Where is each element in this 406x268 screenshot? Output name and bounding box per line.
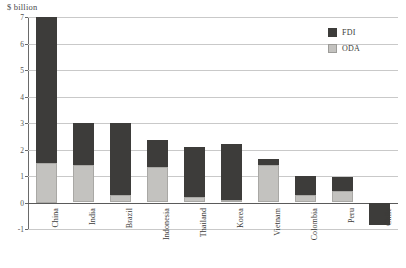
y-tick-label: 4 bbox=[2, 93, 24, 102]
x-axis-label-thailand: Thailand bbox=[199, 208, 208, 237]
legend-label-fdi: FDI bbox=[342, 28, 356, 37]
x-axis-label-vietnam: Vietnam bbox=[273, 208, 282, 236]
bar-group[interactable] bbox=[110, 17, 131, 229]
bar-segment-fdi bbox=[36, 17, 57, 163]
legend-label-oda: ODA bbox=[342, 44, 360, 53]
bar-group[interactable] bbox=[73, 17, 94, 229]
y-tick-label: 1 bbox=[2, 172, 24, 181]
y-tick-label: 0 bbox=[2, 199, 24, 208]
bar-segment-oda bbox=[332, 191, 353, 203]
bar-segment-fdi bbox=[332, 177, 353, 190]
y-tick-label: 3 bbox=[2, 119, 24, 128]
bar-segment-oda bbox=[258, 165, 279, 202]
x-axis-label-china: China bbox=[51, 208, 60, 228]
chart-legend: FDI ODA bbox=[328, 28, 360, 60]
bar-group[interactable] bbox=[147, 17, 168, 229]
bar-segment-fdi bbox=[295, 176, 316, 195]
y-tick-label: 2 bbox=[2, 146, 24, 155]
bar-segment-oda bbox=[295, 195, 316, 203]
bar-segment-fdi bbox=[221, 144, 242, 200]
x-axis-label-colombia: Colombia bbox=[310, 208, 319, 240]
y-tick-label: 5 bbox=[2, 66, 24, 75]
x-axis-label-peru: Peru bbox=[347, 208, 356, 223]
chart-container: $ billion 76543210-1 ChinaIndiaBrazilInd… bbox=[0, 0, 406, 268]
x-axis-label-india: India bbox=[88, 208, 97, 225]
x-axis-label-indonesia: Indonesia bbox=[162, 208, 171, 240]
bar-group[interactable] bbox=[36, 17, 57, 229]
bar-segment-fdi bbox=[258, 159, 279, 166]
x-axis-label-korea: Korea bbox=[236, 208, 245, 228]
legend-swatch-oda bbox=[328, 44, 337, 53]
y-tick-label: 7 bbox=[2, 13, 24, 22]
bar-group[interactable] bbox=[369, 17, 390, 229]
bar-segment-oda bbox=[184, 197, 205, 202]
bar-segment-oda bbox=[110, 195, 131, 203]
bar-segment-oda bbox=[147, 167, 168, 203]
y-axis-unit-label: $ billion bbox=[7, 2, 37, 12]
legend-item-fdi[interactable]: FDI bbox=[328, 28, 360, 37]
x-axis-category-labels: ChinaIndiaBrazilIndonesiaThailandKoreaVi… bbox=[28, 206, 398, 266]
bar-group[interactable] bbox=[184, 17, 205, 229]
x-axis-label-brazil: Brazil bbox=[125, 208, 134, 228]
bar-segment-fdi bbox=[73, 123, 94, 165]
y-tick-label: 6 bbox=[2, 40, 24, 49]
bar-segment-oda bbox=[221, 200, 242, 203]
x-axis-label-chile: Chile bbox=[384, 208, 393, 226]
bar-group[interactable] bbox=[258, 17, 279, 229]
bar-group[interactable] bbox=[221, 17, 242, 229]
bar-group[interactable] bbox=[295, 17, 316, 229]
legend-item-oda[interactable]: ODA bbox=[328, 44, 360, 53]
bar-segment-fdi bbox=[147, 140, 168, 167]
bar-segment-oda bbox=[36, 163, 57, 203]
bar-segment-fdi bbox=[184, 147, 205, 197]
bar-segment-fdi bbox=[110, 123, 131, 195]
bar-segment-oda bbox=[73, 165, 94, 202]
y-tick-label: -1 bbox=[2, 225, 24, 234]
legend-swatch-fdi bbox=[328, 28, 337, 37]
